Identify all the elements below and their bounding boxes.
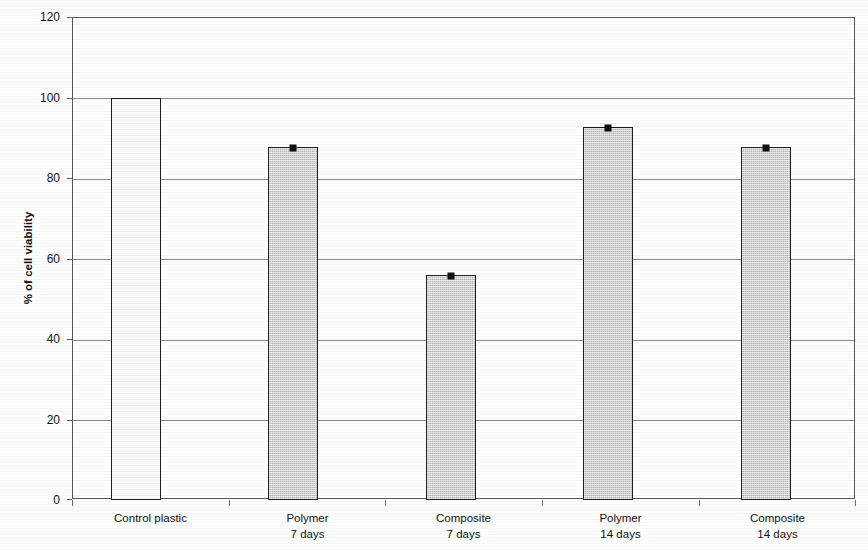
- x-category-line1: Control plastic: [72, 510, 229, 526]
- y-tick-label-80: 80: [14, 172, 60, 184]
- x-category-line1: Polymer: [229, 510, 386, 526]
- x-tick-mark-3: [542, 500, 543, 506]
- x-category-line2: 14 days: [699, 526, 856, 542]
- gridline-80: [73, 179, 854, 180]
- bar-polymer-14-days[interactable]: [583, 127, 633, 500]
- bar-composite-14-days[interactable]: [741, 147, 791, 500]
- gridline-100: [73, 98, 854, 99]
- x-category-line1: Composite: [699, 510, 856, 526]
- error-marker-polymer-7-days: [290, 145, 297, 152]
- x-tick-mark-1: [229, 500, 230, 506]
- x-category-label-polymer-7-days: Polymer 7 days: [229, 510, 386, 542]
- chart-title-fragment: [560, 0, 860, 6]
- x-tick-mark-2: [385, 500, 386, 506]
- x-category-line2: 7 days: [229, 526, 386, 542]
- x-category-label-composite-7-days: Composite 7 days: [385, 510, 542, 542]
- y-tick-label-40: 40: [14, 333, 60, 345]
- error-marker-composite-14-days: [763, 145, 770, 152]
- y-tick-label-20: 20: [14, 414, 60, 426]
- error-marker-composite-7-days: [448, 273, 455, 280]
- x-category-line1: Composite: [385, 510, 542, 526]
- x-category-line1: Polymer: [542, 510, 699, 526]
- bar-control-plastic[interactable]: [111, 98, 161, 500]
- x-category-label-composite-14-days: Composite 14 days: [699, 510, 856, 542]
- error-marker-polymer-14-days: [605, 125, 612, 132]
- x-category-line2: 7 days: [385, 526, 542, 542]
- x-tick-mark-0: [72, 500, 73, 506]
- y-tick-label-60: 60: [14, 253, 60, 265]
- gridline-60: [73, 259, 854, 260]
- cell-viability-bar-chart: % of cell viability 120 100 80 60 40 20 …: [0, 0, 868, 550]
- y-tick-label-120: 120: [14, 11, 60, 23]
- x-tick-mark-5: [855, 500, 856, 506]
- bar-polymer-7-days[interactable]: [268, 147, 318, 500]
- x-tick-mark-4: [699, 500, 700, 506]
- plot-area: [72, 17, 855, 499]
- x-category-label-control-plastic: Control plastic: [72, 510, 229, 526]
- y-tick-label-0: 0: [14, 494, 60, 506]
- y-tick-label-100: 100: [14, 92, 60, 104]
- bar-composite-7-days[interactable]: [426, 275, 476, 500]
- x-category-label-polymer-14-days: Polymer 14 days: [542, 510, 699, 542]
- x-category-line2: 14 days: [542, 526, 699, 542]
